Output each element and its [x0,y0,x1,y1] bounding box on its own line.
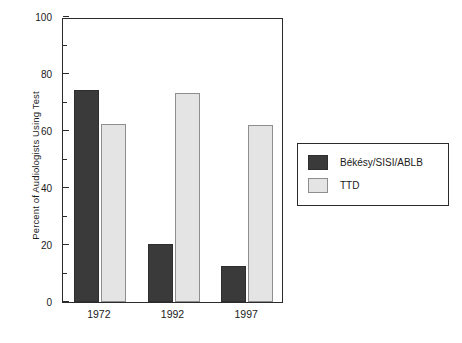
y-tick-label: 60 [41,127,52,137]
y-tick-label: 100 [35,13,52,23]
y-tick-minor [63,159,67,160]
legend-swatch-icon-0 [308,155,328,170]
y-tick-major [63,301,69,302]
y-tick-major [63,73,69,74]
y-axis-tick-labels: 020406080100 [0,18,56,303]
plot-inner [63,19,282,302]
y-tick-major [63,187,69,188]
plot-area [62,18,283,303]
x-tick-label: 1992 [161,308,184,320]
y-tick-minor [63,102,67,103]
y-tick-major [63,16,69,17]
bar-1997-series-0 [221,266,246,302]
bar-1992-series-0 [148,244,173,302]
y-tick-major [63,130,69,131]
legend-swatch-icon-1 [308,178,328,193]
y-tick-minor [63,273,67,274]
y-tick-label: 20 [41,241,52,251]
y-tick-label: 0 [46,298,52,308]
x-tick-label: 1997 [234,308,257,320]
y-tick-minor [63,216,67,217]
y-tick-label: 80 [41,70,52,80]
chart-legend: Békésy/SISI/ABLB TTD [297,143,449,206]
bar-1972-series-1 [101,124,126,302]
bar-1992-series-1 [175,93,200,302]
y-tick-major [63,244,69,245]
legend-label-0: Békésy/SISI/ABLB [340,157,423,168]
legend-label-1: TTD [340,180,359,191]
bar-1972-series-0 [74,90,99,302]
x-axis-tick-labels: 197219921997 [62,308,283,328]
legend-item-1[interactable]: TTD [308,178,359,193]
legend-item-0[interactable]: Békésy/SISI/ABLB [308,155,423,170]
y-tick-minor [63,45,67,46]
bar-1997-series-1 [248,125,273,302]
bar-chart-figure: Percent of Audiologists Using Test 02040… [0,0,462,343]
x-tick-label: 1972 [87,308,110,320]
y-tick-label: 40 [41,184,52,194]
